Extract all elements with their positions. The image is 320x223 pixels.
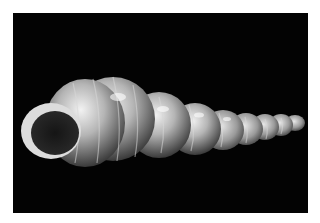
shell-aperture [21,103,81,159]
shell-illustration [13,13,308,213]
shell-photo [13,13,308,213]
